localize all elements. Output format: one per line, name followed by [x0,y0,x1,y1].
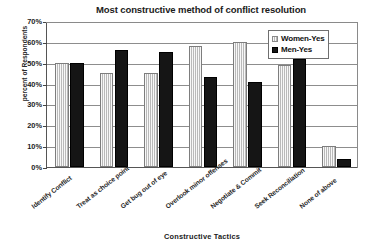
bar-women [278,65,292,167]
bar-women [322,146,336,167]
bar-men [159,52,173,167]
y-tick-label: 20% [16,122,42,129]
legend-swatch-women [272,36,278,42]
bar-group [136,22,181,167]
y-axis-tick-labels: 70%60%50%40%30%20%10%0% [12,0,42,250]
bar-men [248,82,262,168]
y-tick-label: 30% [16,101,42,108]
chart-title: Most constructive method of conflict res… [56,4,346,15]
x-axis-title: Constructive Tactics [46,232,358,241]
legend-label: Men-Yes [281,45,312,54]
bar-women [233,42,247,167]
y-tick-label: 10% [16,143,42,150]
bar-women [100,73,114,167]
bar-group [181,22,226,167]
bar-men [70,63,84,167]
legend-item[interactable]: Men-Yes [272,44,324,55]
y-tick-mark [43,168,47,169]
y-tick-label: 0% [16,164,42,171]
y-tick-label: 70% [16,18,42,25]
bar-group [47,22,92,167]
bar-men [293,59,307,167]
bar-men [204,77,218,167]
legend-label: Women-Yes [281,34,324,43]
bar-men [337,159,351,167]
legend-swatch-men [272,47,278,53]
bar-women [144,73,158,167]
legend-item[interactable]: Women-Yes [272,33,324,44]
bar-women [189,46,203,167]
y-tick-label: 60% [16,39,42,46]
y-tick-label: 40% [16,81,42,88]
bar-men [115,50,129,167]
bar-group [225,22,270,167]
chart-figure: Most constructive method of conflict res… [0,0,385,250]
y-tick-label: 50% [16,60,42,67]
bar-group [92,22,137,167]
bar-women [55,63,69,167]
chart-legend: Women-YesMen-Yes [268,30,329,59]
